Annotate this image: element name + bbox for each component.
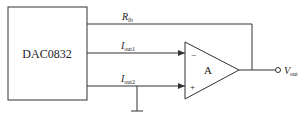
iout2-label: Iout2 [120, 73, 135, 85]
rfb-label: Rfb [121, 11, 133, 23]
dac-label: DAC0832 [22, 47, 71, 61]
non-inverting-input-sign: + [190, 82, 195, 92]
dac-opamp-circuit: DAC0832 A − + Rfb Iout1 Iout2 Vout [0, 0, 303, 124]
rfb-feedback-wire [87, 24, 252, 70]
iout1-arrow-icon [178, 50, 185, 56]
opamp-label: A [204, 64, 212, 76]
iout2-arrow-icon [178, 83, 185, 89]
iout1-label: Iout1 [120, 40, 135, 52]
vout-label: Vout [284, 65, 298, 77]
inverting-input-sign: − [191, 50, 196, 60]
vout-terminal [276, 68, 281, 73]
